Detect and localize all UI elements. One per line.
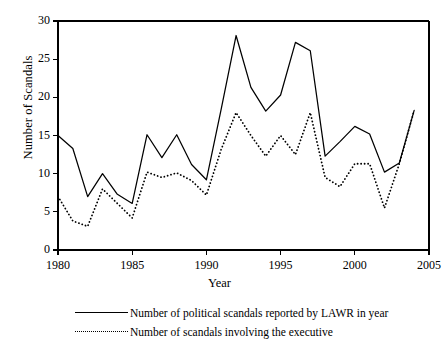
x-tick-label: 1985 bbox=[112, 258, 152, 273]
y-axis-title: Number of Scandals bbox=[21, 28, 36, 188]
series-line-executive bbox=[58, 110, 414, 226]
y-tick-label: 5 bbox=[18, 204, 50, 219]
legend-dotted-line-icon bbox=[75, 326, 128, 337]
chart-legend: Number of political scandals reported by… bbox=[0, 303, 439, 341]
x-tick-label: 2005 bbox=[409, 258, 446, 273]
series-line-lawr bbox=[58, 36, 414, 204]
x-tick-label: 1980 bbox=[38, 258, 78, 273]
y-tick-label: 30 bbox=[18, 13, 50, 28]
tick-marks bbox=[53, 21, 429, 255]
x-axis-title: Year bbox=[0, 276, 439, 291]
legend-item-dotted: Number of scandals involving the executi… bbox=[0, 322, 439, 341]
axis-frame bbox=[58, 21, 429, 250]
legend-solid-line-icon bbox=[75, 307, 128, 318]
x-tick-label: 1995 bbox=[261, 258, 301, 273]
data-series-layer bbox=[58, 36, 414, 227]
legend-label-dotted: Number of scandals involving the executi… bbox=[130, 326, 333, 338]
legend-item-solid: Number of political scandals reported by… bbox=[0, 303, 439, 322]
x-tick-label: 2000 bbox=[335, 258, 375, 273]
x-tick-label: 1990 bbox=[186, 258, 226, 273]
legend-label-solid: Number of political scandals reported by… bbox=[130, 307, 388, 319]
y-tick-label: 0 bbox=[18, 242, 50, 257]
